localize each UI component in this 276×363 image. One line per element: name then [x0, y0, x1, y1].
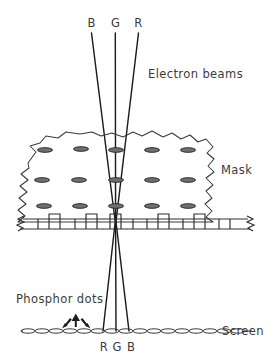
beam-path-b [92, 33, 116, 222]
label-phosphor-dots: Phosphor dots [16, 292, 103, 306]
mask-hole [38, 148, 53, 153]
mask-hole [109, 204, 124, 209]
phosphor-dot [147, 329, 161, 333]
label-electron-beams: Electron beams [148, 67, 243, 81]
label-beam-g-top: G [111, 16, 120, 30]
phosphor-dot [105, 329, 119, 333]
beam-path-lower-r [103, 222, 115, 331]
mask-hole [181, 148, 196, 153]
phosphor-dot [35, 329, 49, 333]
label-beam-b-top: B [87, 16, 95, 30]
mask-hole [109, 178, 124, 183]
phosphor-dot [133, 329, 147, 333]
mask-hole [181, 178, 196, 183]
section-apertures [49, 214, 205, 219]
diagram-canvas: B G R Electron beams Mask Phosphor dots … [0, 0, 276, 363]
label-beam-r-top: R [134, 16, 142, 30]
mask-hole [145, 204, 160, 209]
screen-phosphor-strip [21, 329, 252, 333]
mask-hole [73, 204, 88, 209]
phosphor-dot [175, 329, 189, 333]
beam-path-lower-b [116, 222, 129, 331]
phosphor-dot [77, 329, 91, 333]
phosphor-dot [21, 329, 35, 333]
phosphor-dot [161, 329, 175, 333]
phosphor-dot [49, 329, 63, 333]
mask-hole [145, 148, 160, 153]
beam-path-r [116, 33, 139, 222]
phosphor-dot [63, 329, 77, 333]
electron-beam-group [92, 33, 139, 222]
phosphor-dot [203, 329, 217, 333]
label-screen: Screen [222, 324, 264, 338]
label-dot-b-bottom: B [127, 340, 135, 354]
mask-hole [35, 178, 50, 183]
section-slot-walls [38, 219, 230, 229]
mask-hole [181, 204, 196, 209]
mask-hole [74, 147, 89, 152]
label-dot-r-bottom: R [100, 340, 108, 354]
mask-hole [145, 178, 160, 183]
label-mask: Mask [221, 163, 252, 177]
mask-hole [72, 178, 87, 183]
mask-hole [109, 148, 124, 153]
phosphor-dot [119, 329, 133, 333]
electron-beam-group-lower [103, 222, 129, 331]
arrow-up-head-icon [72, 314, 80, 322]
phosphor-dot-arrows [62, 314, 91, 329]
crt-shadow-mask-diagram: B G R Electron beams Mask Phosphor dots … [0, 0, 276, 363]
label-dot-g-bottom: G [112, 340, 121, 354]
mask-hole [37, 204, 52, 209]
phosphor-dot [189, 329, 203, 333]
